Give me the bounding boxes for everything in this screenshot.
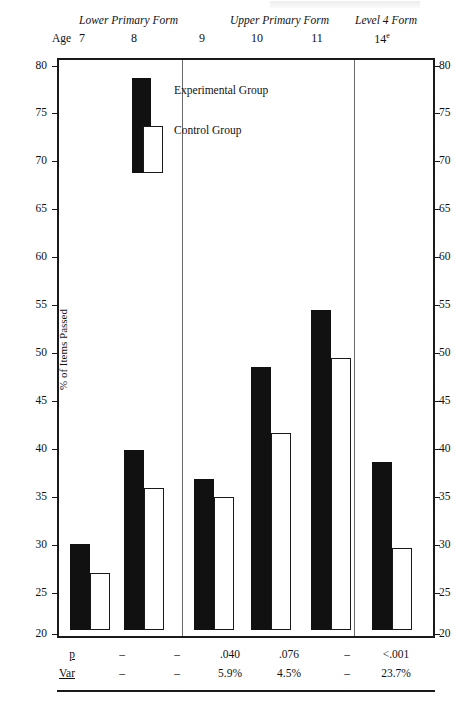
y-label-right-45: 45 bbox=[439, 395, 456, 407]
bar-group-container bbox=[59, 60, 433, 636]
y-label-left-80: 80 bbox=[21, 60, 47, 72]
stats-var-age-10: 4.5% bbox=[262, 667, 316, 679]
y-label-right-65: 65 bbox=[439, 203, 456, 215]
stats-row-label-p: p bbox=[20, 648, 75, 660]
cropped-title-artifact bbox=[270, 1, 420, 8]
age-tick-9: 9 bbox=[190, 31, 214, 46]
bar-experimental-age-14 bbox=[372, 462, 392, 631]
stats-p-age-9: .040 bbox=[203, 648, 257, 660]
bar-control-age-11 bbox=[331, 358, 351, 630]
stats-p-age-14: <.001 bbox=[369, 648, 423, 660]
stats-row-var: Var – – 5.9% 4.5% – 23.7% bbox=[0, 667, 456, 686]
y-tick-left-55 bbox=[52, 305, 59, 306]
group-band-lower-primary: Lower Primary Form bbox=[79, 14, 178, 26]
y-label-left-70: 70 bbox=[21, 155, 47, 167]
age-tick-10: 10 bbox=[245, 31, 269, 46]
bar-experimental-age-9 bbox=[194, 479, 214, 630]
y-tick-left-50 bbox=[52, 353, 59, 354]
bar-experimental-age-7 bbox=[70, 544, 90, 630]
stats-var-age-7: – bbox=[95, 667, 149, 679]
stats-var-age-14: 23.7% bbox=[369, 667, 423, 679]
stats-row-p: p – – .040 .076 – <.001 bbox=[0, 648, 456, 667]
stats-var-age-9: 5.9% bbox=[203, 667, 257, 679]
stats-row-label-var: Var bbox=[20, 667, 75, 679]
y-tick-left-35 bbox=[52, 497, 59, 498]
plot-area: % of Items Passed 80 75 70 65 60 55 50 4… bbox=[57, 58, 435, 638]
chart-page: Lower Primary Form Upper Primary Form Le… bbox=[0, 0, 456, 703]
age-tick-14-value: 14 bbox=[374, 32, 386, 46]
bar-control-age-9 bbox=[214, 497, 234, 630]
y-label-left-30: 30 bbox=[21, 539, 47, 551]
y-label-left-65: 65 bbox=[21, 203, 47, 215]
bar-control-age-14 bbox=[392, 548, 412, 630]
y-label-left-55: 55 bbox=[21, 299, 47, 311]
bar-control-age-7 bbox=[90, 573, 110, 630]
y-tick-left-40 bbox=[52, 449, 59, 450]
bar-control-age-10 bbox=[271, 433, 291, 630]
y-label-right-75: 75 bbox=[439, 107, 456, 119]
y-label-left-20: 20 bbox=[21, 628, 47, 640]
y-label-left-60: 60 bbox=[21, 251, 47, 263]
y-label-left-45: 45 bbox=[21, 395, 47, 407]
y-tick-left-20 bbox=[52, 634, 59, 635]
y-label-right-30: 30 bbox=[439, 539, 456, 551]
age-tick-11: 11 bbox=[305, 31, 329, 46]
age-tick-14: 14e bbox=[367, 31, 397, 47]
y-tick-left-25 bbox=[52, 593, 59, 594]
y-tick-left-75 bbox=[52, 113, 59, 114]
group-band-level4: Level 4 Form bbox=[355, 14, 417, 26]
age-tick-7: 7 bbox=[70, 31, 94, 46]
bar-experimental-age-10 bbox=[251, 367, 271, 630]
y-label-right-35: 35 bbox=[439, 491, 456, 503]
stats-p-age-8: – bbox=[150, 648, 204, 660]
y-label-left-50: 50 bbox=[21, 347, 47, 359]
stats-p-age-7: – bbox=[95, 648, 149, 660]
bar-control-age-8 bbox=[144, 488, 164, 630]
stats-p-age-11: – bbox=[320, 648, 374, 660]
group-band-upper-primary: Upper Primary Form bbox=[230, 14, 329, 26]
y-label-left-75: 75 bbox=[21, 107, 47, 119]
y-tick-left-70 bbox=[52, 161, 59, 162]
y-label-right-40: 40 bbox=[439, 443, 456, 455]
y-label-left-25: 25 bbox=[21, 587, 47, 599]
y-tick-left-80 bbox=[52, 66, 59, 67]
y-label-right-60: 60 bbox=[439, 251, 456, 263]
stats-p-age-10: .076 bbox=[262, 648, 316, 660]
y-label-right-80: 80 bbox=[439, 60, 456, 72]
stats-table: p – – .040 .076 – <.001 Var – – 5.9% 4.5… bbox=[0, 648, 456, 686]
y-label-right-50: 50 bbox=[439, 347, 456, 359]
y-label-left-40: 40 bbox=[21, 443, 47, 455]
y-label-right-55: 55 bbox=[439, 299, 456, 311]
bottom-rule bbox=[57, 690, 435, 692]
age-tick-14-superscript: e bbox=[386, 31, 390, 40]
y-tick-left-45 bbox=[52, 401, 59, 402]
y-label-left-35: 35 bbox=[21, 491, 47, 503]
age-tick-8: 8 bbox=[122, 31, 146, 46]
y-label-right-25: 25 bbox=[439, 587, 456, 599]
y-tick-left-65 bbox=[52, 209, 59, 210]
bar-experimental-age-11 bbox=[311, 310, 331, 630]
y-label-right-70: 70 bbox=[439, 155, 456, 167]
bar-experimental-age-8 bbox=[124, 450, 144, 630]
y-tick-left-60 bbox=[52, 257, 59, 258]
stats-var-age-8: – bbox=[150, 667, 204, 679]
y-label-right-20: 20 bbox=[439, 628, 456, 640]
age-axis-label: Age bbox=[52, 32, 71, 44]
stats-var-age-11: – bbox=[320, 667, 374, 679]
y-tick-left-30 bbox=[52, 545, 59, 546]
